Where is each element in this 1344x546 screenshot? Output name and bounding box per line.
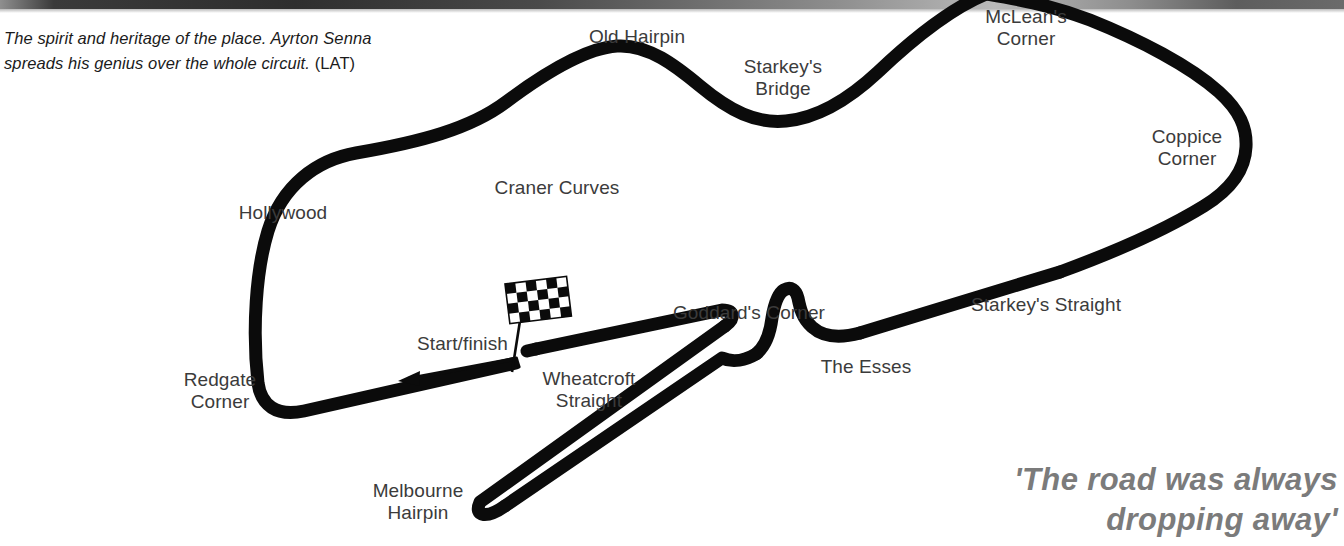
label-mcleans-corner: McLean's Corner <box>946 6 1106 50</box>
circuit-map-page: The spirit and heritage of the place. Ay… <box>0 0 1344 546</box>
pull-quote-line-2: dropping away' <box>858 500 1338 540</box>
pull-quote: 'The road was always dropping away' <box>858 460 1338 540</box>
label-craner-curves: Craner Curves <box>457 177 657 199</box>
label-start-finish: Start/finish <box>417 333 597 355</box>
label-the-esses: The Esses <box>786 356 946 378</box>
label-goddards-corner: Goddard's Corner <box>639 302 859 324</box>
label-old-hairpin: Old Hairpin <box>537 26 737 48</box>
label-redgate-corner: Redgate Corner <box>140 369 300 413</box>
label-starkeys-bridge: Starkey's Bridge <box>703 56 863 100</box>
label-starkeys-straight: Starkey's Straight <box>936 294 1156 316</box>
pull-quote-line-1: 'The road was always <box>858 460 1338 500</box>
label-coppice-corner: Coppice Corner <box>1107 126 1267 170</box>
label-melbourne-hairpin: Melbourne Hairpin <box>338 480 498 524</box>
checkered-flag <box>505 276 571 323</box>
label-hollywood: Hollywood <box>193 202 373 224</box>
label-wheatcroft-straight: Wheatcroft Straight <box>509 368 669 412</box>
